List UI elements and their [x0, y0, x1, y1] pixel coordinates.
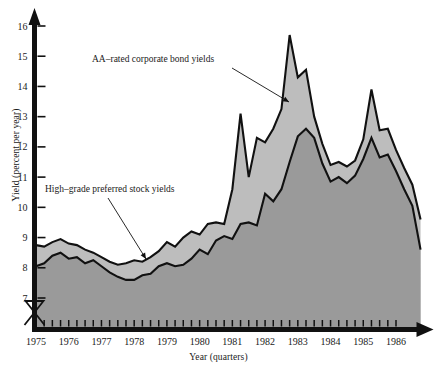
x-axis-arrow	[417, 322, 434, 337]
y-tick-label: 15	[18, 51, 28, 62]
x-tick-label: 1985	[353, 336, 373, 347]
x-tick-label: 1984	[321, 336, 341, 347]
x-tick-label: 1980	[190, 336, 210, 347]
y-axis-arrow	[29, 8, 41, 25]
x-axis-title: Year (quarters)	[0, 352, 437, 362]
x-tick-label: 1977	[91, 336, 111, 347]
x-axis-line	[32, 327, 418, 332]
annotation-label-2: High–grade preferred stock yields	[45, 184, 175, 194]
y-tick-label: 14	[18, 81, 28, 92]
y-tick-label: 8	[23, 262, 28, 273]
y-tick-label: 16	[18, 21, 28, 32]
x-tick-label: 1983	[288, 336, 308, 347]
x-tick-label: 1981	[222, 336, 242, 347]
annotation-leader-1	[232, 68, 289, 102]
plot-areas	[36, 35, 421, 327]
annotation-label-1: AA–rated corporate bond yields	[92, 54, 214, 64]
y-axis-title: Yield (percent per year)	[11, 95, 21, 215]
y-tick-label: 9	[23, 232, 28, 243]
x-tick-label: 1979	[157, 336, 177, 347]
y-tick-label: 7	[23, 293, 28, 304]
chart-container: 78910111213141516 1975197619771978197919…	[0, 0, 437, 370]
yield-area-chart: 78910111213141516 1975197619771978197919…	[0, 0, 437, 370]
x-tick-label: 1975	[26, 336, 46, 347]
x-tick-label: 1976	[59, 336, 79, 347]
annotation-leader-2	[108, 198, 146, 259]
x-tick-label: 1986	[386, 336, 406, 347]
x-tick-label: 1982	[255, 336, 275, 347]
annotation-arrowhead-2	[141, 253, 146, 259]
y-axis-line	[32, 22, 37, 327]
x-tick-label: 1978	[124, 336, 144, 347]
